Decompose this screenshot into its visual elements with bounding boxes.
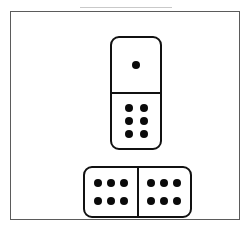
upper-domino-top-half-pips bbox=[112, 38, 160, 92]
upper-domino-bottom-half bbox=[112, 92, 160, 148]
domino-pip bbox=[140, 130, 148, 138]
domino-pip bbox=[132, 61, 140, 69]
domino-pip bbox=[94, 179, 102, 187]
domino-pip bbox=[125, 117, 133, 125]
domino-pip bbox=[125, 130, 133, 138]
domino-pip bbox=[147, 179, 155, 187]
upper-domino-bottom-half-pips bbox=[112, 94, 160, 148]
domino-pip bbox=[120, 179, 128, 187]
picture-frame-border bbox=[10, 11, 240, 220]
upper-domino-top-half bbox=[112, 38, 160, 92]
domino-pip bbox=[140, 104, 148, 112]
domino-pip bbox=[160, 179, 168, 187]
domino-pip bbox=[173, 179, 181, 187]
lower-domino-right-half-pips bbox=[139, 168, 191, 216]
domino-pip bbox=[147, 197, 155, 205]
domino-pip bbox=[120, 197, 128, 205]
upper-domino[interactable] bbox=[110, 36, 162, 150]
lower-domino[interactable] bbox=[83, 166, 192, 218]
domino-pip bbox=[107, 179, 115, 187]
domino-pip bbox=[125, 104, 133, 112]
scan-edge-line bbox=[80, 7, 172, 8]
domino-pip bbox=[94, 197, 102, 205]
domino-pip bbox=[160, 197, 168, 205]
domino-pip bbox=[140, 117, 148, 125]
domino-pip bbox=[107, 197, 115, 205]
lower-domino-left-half-pips bbox=[85, 168, 137, 216]
domino-illustration-scene bbox=[0, 0, 249, 232]
lower-domino-right-half bbox=[137, 168, 191, 216]
domino-pip bbox=[173, 197, 181, 205]
lower-domino-left-half bbox=[85, 168, 137, 216]
